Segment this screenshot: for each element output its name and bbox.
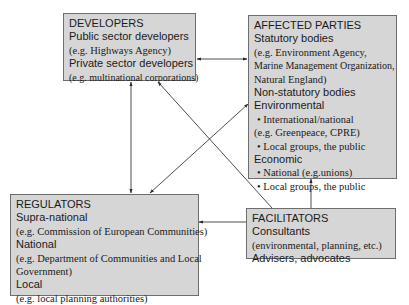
facilitators-title: FACILITATORS <box>252 212 390 225</box>
affected-parties-line: Natural England) <box>254 73 391 86</box>
affected-parties-line: (e.g. Environment Agency, <box>254 46 391 59</box>
developers-line: Private sector developers <box>69 57 190 70</box>
facilitators-line: Consultants <box>252 225 390 238</box>
developers-line: (e.g. Highways Agency) <box>69 44 190 57</box>
regulators-line: Local <box>16 278 193 291</box>
developers-line: Public sector developers <box>69 30 190 43</box>
affected-parties-bullet: • Local groups, the public <box>254 180 391 193</box>
developers-title: DEVELOPERS <box>69 17 190 30</box>
developers-box: DEVELOPERS Public sector developers (e.g… <box>63 13 196 81</box>
affected-parties-title: AFFECTED PARTIES <box>254 19 391 32</box>
affected-parties-bullet: • International/national <box>254 113 391 126</box>
affected-parties-line: (e.g. Greenpeace, CPRE) <box>254 126 391 139</box>
regulators-line: (e.g. Commission of European Communities… <box>16 225 193 238</box>
affected-parties-bullet: • Local groups, the public <box>254 140 391 153</box>
regulators-box: REGULATORS Supra-national (e.g. Commissi… <box>10 194 199 296</box>
affected-parties-bullet: • National (e.g.unions) <box>254 166 391 179</box>
regulators-line: (e.g. Department of Communities and Loca… <box>16 252 193 265</box>
arrow-affected-regulators <box>150 104 248 193</box>
affected-parties-line: Marine Management Organization, <box>254 59 391 72</box>
facilitators-line: (environmental, planning, etc.) <box>252 239 390 252</box>
regulators-line: (e.g. local planning authorities) <box>16 292 193 305</box>
affected-parties-line: Statutory bodies <box>254 32 391 45</box>
affected-parties-line: Economic <box>254 153 391 166</box>
developers-line: (e.g. multinational corporations) <box>69 71 190 84</box>
regulators-line: Supra-national <box>16 211 193 224</box>
facilitators-box: FACILITATORS Consultants (environmental,… <box>246 208 396 259</box>
regulators-title: REGULATORS <box>16 198 193 211</box>
affected-parties-line: Environmental <box>254 99 391 112</box>
affected-parties-box: AFFECTED PARTIES Statutory bodies (e.g. … <box>248 15 397 179</box>
regulators-line: National <box>16 238 193 251</box>
facilitators-line: Advisers, advocates <box>252 252 390 265</box>
regulators-line: Government) <box>16 265 193 278</box>
affected-parties-line: Non-statutory bodies <box>254 86 391 99</box>
